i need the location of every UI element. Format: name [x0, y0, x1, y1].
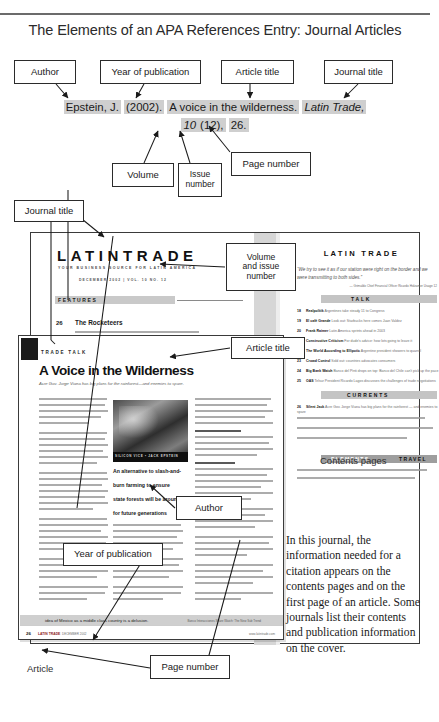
greek-line	[195, 398, 271, 400]
callout-author-2: Author	[176, 496, 242, 520]
citation-page: 26.	[229, 118, 249, 132]
greek-line	[297, 417, 425, 419]
greek-line	[39, 462, 97, 464]
magazine-tagline: YOUR BUSINESS SOURCE FOR LATIN AMERICA	[58, 266, 196, 270]
greek-line	[297, 437, 407, 439]
contents-pull-attribution: — Grimaldo Chief Financial Officer Ricar…	[331, 284, 437, 288]
greek-line	[39, 416, 101, 418]
greek-line	[195, 526, 255, 528]
callout-journal-title: Journal title	[324, 60, 393, 84]
greek-line	[39, 438, 105, 440]
greek-line	[113, 530, 183, 532]
greek-line	[39, 530, 101, 532]
callout-article-title-2: Article title	[231, 337, 305, 359]
greek-line	[195, 454, 257, 456]
magazine-logo: LATINTRADE	[57, 247, 198, 264]
callout-journal-title-2: Journal title	[14, 200, 84, 222]
greek-line	[39, 410, 108, 412]
callout-volume-and-issue-number: Volume and issue number	[226, 243, 296, 291]
greek-line	[39, 422, 89, 424]
toc-row: 23Crowd Control Sold out: countries advo…	[297, 359, 439, 364]
article-footer-url: www.latintrade.com	[249, 632, 275, 636]
greek-line	[39, 536, 108, 538]
talk-bar	[321, 295, 437, 303]
greek-line	[113, 586, 183, 588]
article-banner-text: idea of Mexico as a middle class country…	[45, 618, 148, 623]
header-rule	[0, 13, 430, 15]
greek-line	[39, 472, 107, 474]
greek-line	[195, 548, 273, 550]
greek-line	[39, 524, 108, 526]
feature-title: The Rocketeers	[75, 319, 123, 326]
greek-line	[195, 422, 273, 424]
greek-line	[195, 592, 273, 594]
greek-line	[195, 448, 273, 450]
greek-line	[195, 468, 273, 470]
contents-right-logo: LATIN TRADE	[324, 249, 399, 258]
callout-year-of-publication: Year of publication	[100, 60, 201, 84]
callout-year-of-publication-2: Year of publication	[63, 543, 163, 566]
greek-line	[297, 427, 433, 429]
callout-volume: Volume	[112, 163, 174, 187]
callout-author: Author	[14, 60, 76, 84]
toc-row: 26Silent Jack Acre Gov. Jorge Viana has …	[297, 405, 439, 414]
citation-article-title: A voice in the wilderness.	[167, 100, 299, 114]
citation-year: (2002).	[124, 100, 164, 114]
explanatory-text: In this journal, the information needed …	[286, 533, 422, 656]
greek-line	[195, 598, 241, 600]
toc-row: 22The World According to Ellipotic Argen…	[297, 349, 439, 354]
greek-line	[195, 410, 273, 412]
callout-page-number: Page number	[231, 152, 311, 176]
greek-line	[113, 536, 177, 538]
callout-page-number-2: Page number	[150, 655, 230, 679]
citation-line-1: Epstein, J. (2002). A voice in the wilde…	[0, 101, 430, 113]
greek-line	[39, 518, 107, 520]
greek-line	[113, 598, 163, 600]
greek-line	[195, 436, 273, 438]
callout-article-title: Article title	[221, 60, 294, 84]
greek-line	[113, 524, 181, 526]
talk-label: TALK	[351, 296, 371, 302]
article-kicker: TRADE TALK	[41, 350, 87, 355]
greek-line	[113, 592, 181, 594]
citation-volume: 10	[181, 118, 198, 132]
greek-line	[39, 570, 108, 572]
features-label: FEATURES	[58, 297, 97, 303]
article-footer-issue: DECEMBER 2002	[62, 632, 87, 636]
greek-line	[195, 554, 247, 556]
greek-line	[297, 469, 427, 471]
article-corner-block	[21, 338, 38, 360]
greek-line	[195, 442, 269, 444]
greek-line	[195, 480, 273, 482]
citation-line-2: 10(12), 26.	[0, 119, 430, 131]
article-pull-quote-line: burn farming to ensure	[113, 482, 170, 488]
article-page: TRADE TALK A Voice in the Wilderness Acr…	[18, 335, 284, 640]
greek-line	[39, 484, 102, 486]
greek-line	[195, 474, 267, 476]
toc-row: 21Constructive Criticism For dude's advi…	[297, 339, 439, 344]
feature-page-number: 26	[56, 320, 63, 326]
magazine-dateline: DECEMBER 2002 | VOL. 10 NO. 12	[79, 278, 167, 282]
greek-line	[297, 477, 415, 479]
article-pull-quote-line: for future generations	[113, 510, 167, 516]
article-deck: Acre Gov. Jorge Viana has big plans for …	[39, 381, 254, 386]
article-headline: A Voice in the Wilderness	[39, 363, 194, 378]
greek-line	[195, 416, 265, 418]
greek-line	[39, 508, 93, 510]
toc-row: 24Big Bank Watch Banco del Pinti drops o…	[297, 369, 439, 374]
greek-line	[39, 598, 87, 600]
contents-pull-quote: “We try to see it as if our station were…	[297, 266, 437, 282]
greek-line	[195, 486, 261, 488]
greek-line	[75, 331, 199, 333]
greek-line	[195, 536, 273, 538]
article-pull-quote-line: An alternative to slash-and-	[113, 468, 181, 474]
citation-issue: (12),	[198, 118, 225, 132]
article-footer-brand: LATIN TRADE	[38, 632, 60, 636]
callout-issue-number: Issue number	[178, 163, 222, 197]
greek-line	[39, 502, 108, 504]
photo-credit: SILICON VICE • JACK EPSTEIN	[115, 454, 178, 458]
article-page-number: 26	[26, 631, 31, 636]
greek-line	[39, 496, 105, 498]
greek-line	[39, 450, 103, 452]
greek-line	[39, 398, 107, 400]
